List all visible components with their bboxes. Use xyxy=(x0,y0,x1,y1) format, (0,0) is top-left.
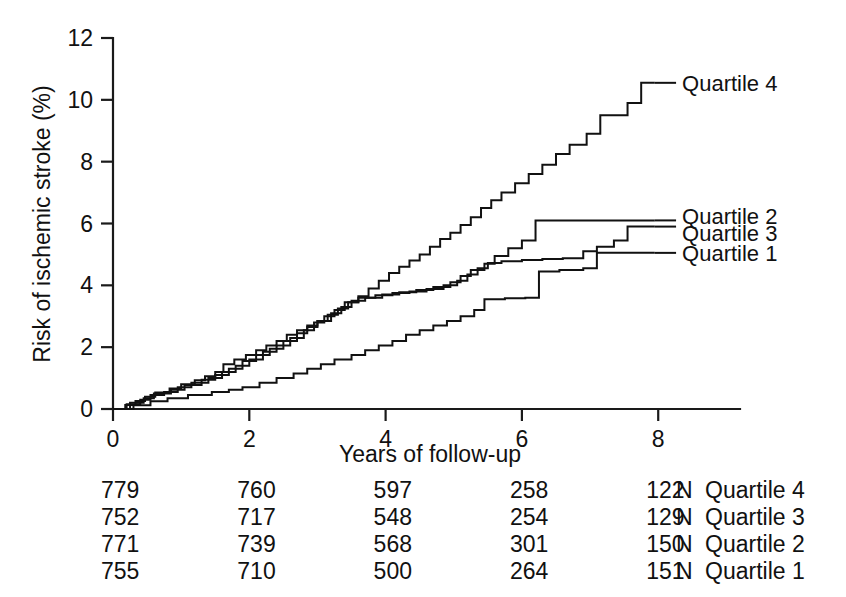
risk-count: 568 xyxy=(374,531,412,557)
y-tick-label: 0 xyxy=(80,396,93,422)
risk-count: 755 xyxy=(101,558,139,584)
y-tick-label: 8 xyxy=(80,149,93,175)
chart-page: 024681012 Risk of ischemic stroke (%) 02… xyxy=(0,0,846,597)
curve-quartile-4 xyxy=(113,83,655,409)
risk-count: 710 xyxy=(237,558,275,584)
risk-count: 771 xyxy=(101,531,139,557)
risk-n-header: N xyxy=(676,531,693,557)
risk-row-label: Quartile 4 xyxy=(705,477,805,503)
x-axis-title: Years of follow-up xyxy=(339,441,521,467)
risk-count: 301 xyxy=(510,531,548,557)
risk-count: 739 xyxy=(237,531,275,557)
risk-row-label: Quartile 1 xyxy=(705,558,805,584)
risk-n-header: N xyxy=(676,477,693,503)
risk-table: 779760597258122NQuartile 475271754825412… xyxy=(101,477,805,584)
risk-count: 548 xyxy=(374,504,412,530)
risk-row-label: Quartile 2 xyxy=(705,531,805,557)
y-tick-label: 4 xyxy=(80,272,93,298)
curve-group xyxy=(113,83,676,409)
x-axis-group: 02468 Years of follow-up xyxy=(107,409,740,467)
risk-count: 760 xyxy=(237,477,275,503)
risk-count: 779 xyxy=(101,477,139,503)
risk-count: 254 xyxy=(510,504,549,530)
curve-label-4: Quartile 1 xyxy=(682,241,777,266)
kaplan-meier-chart: 024681012 Risk of ischemic stroke (%) 02… xyxy=(0,0,846,597)
risk-count: 752 xyxy=(101,504,139,530)
x-tick-label: 2 xyxy=(243,426,256,452)
curve-label-1: Quartile 4 xyxy=(682,71,777,96)
y-tick-label: 12 xyxy=(67,25,93,51)
y-tick-label: 2 xyxy=(80,334,93,360)
y-axis-title: Risk of ischemic stroke (%) xyxy=(29,85,55,362)
risk-count: 500 xyxy=(374,558,412,584)
risk-count: 717 xyxy=(237,504,275,530)
x-tick-label: 0 xyxy=(107,426,120,452)
y-tick-group: 024681012 xyxy=(67,25,113,422)
risk-n-header: N xyxy=(676,558,693,584)
y-tick-label: 10 xyxy=(67,87,93,113)
y-tick-label: 6 xyxy=(80,211,93,237)
risk-n-header: N xyxy=(676,504,693,530)
risk-count: 264 xyxy=(510,558,549,584)
risk-row-label: Quartile 3 xyxy=(705,504,805,530)
y-axis-group: 024681012 Risk of ischemic stroke (%) xyxy=(29,25,113,422)
curve-label-group: Quartile 4Quartile 2Quartile 3Quartile 1 xyxy=(682,71,777,266)
x-tick-label: 8 xyxy=(652,426,665,452)
risk-count: 597 xyxy=(374,477,412,503)
risk-count: 258 xyxy=(510,477,548,503)
